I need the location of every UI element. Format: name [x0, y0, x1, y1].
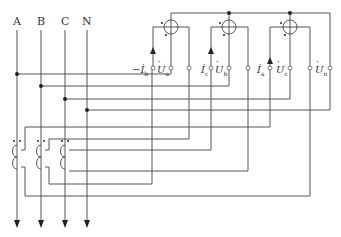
current-label-element-3: İa — [257, 65, 265, 77]
terminal — [169, 66, 173, 70]
terminal — [268, 66, 272, 70]
top-bus-wire — [171, 13, 330, 68]
arrow-down-icon — [84, 220, 90, 228]
ct-a-s2-wire — [21, 70, 310, 196]
junction-dot — [227, 11, 231, 15]
arrow-down-icon — [62, 220, 68, 228]
terminal — [288, 66, 292, 70]
m1-current-out — [178, 27, 189, 68]
junction-dot — [63, 97, 67, 101]
ct-coil-a — [13, 145, 18, 169]
terminal — [187, 66, 191, 70]
terminal — [151, 66, 155, 70]
terminal — [209, 66, 213, 70]
current-arrow-icon — [267, 57, 273, 64]
current-label-element-2: İc — [201, 65, 208, 77]
ct-coil-c — [61, 145, 66, 169]
phase-label-c: C — [61, 16, 69, 27]
voltage-label-neutral: Un — [315, 65, 327, 77]
ct-coil-b — [37, 145, 42, 169]
junction-dot — [39, 84, 43, 88]
m3-current-out — [297, 27, 310, 68]
junction-dot — [85, 108, 89, 112]
current-arrow-icon — [208, 47, 214, 54]
terminal — [308, 66, 312, 70]
voltage-label-element-3: Uc — [276, 65, 288, 77]
current-label-element-1: −İb — [132, 65, 148, 77]
junction-dot — [288, 11, 292, 15]
phase-label-a: A — [13, 16, 21, 27]
arrow-down-icon — [14, 220, 20, 228]
voltage-label-element-1: Ua — [157, 65, 169, 77]
arrow-down-icon — [38, 220, 44, 228]
current-arrow-icon — [150, 47, 156, 54]
phase-label-b: B — [37, 16, 45, 27]
terminal — [227, 66, 231, 70]
phase-label-n: N — [82, 16, 92, 27]
m2-current-out — [236, 27, 248, 68]
voltage-label-element-2: Ub — [215, 65, 227, 77]
ct-c-s2-wire — [69, 70, 248, 171]
wire-un-to-n — [87, 70, 330, 110]
terminal — [328, 66, 332, 70]
terminal — [246, 66, 250, 70]
circuit-diagram — [0, 0, 341, 237]
junction-dot — [15, 72, 19, 76]
